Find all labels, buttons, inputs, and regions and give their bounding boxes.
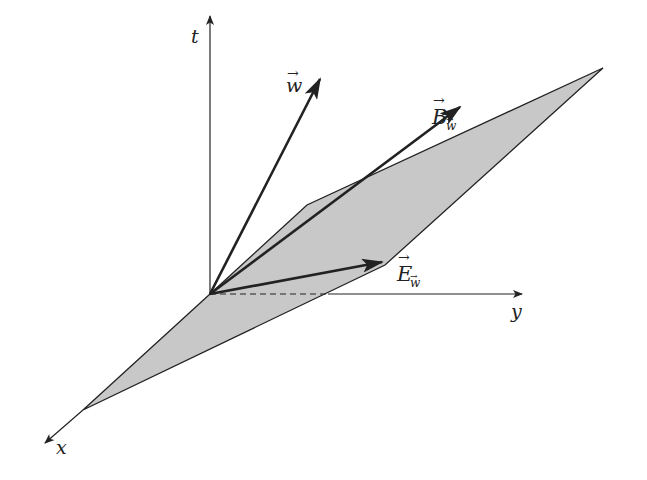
w-label: → w [286,65,302,96]
t-axis-label: t [191,25,199,47]
B-subscript: w [446,119,457,133]
E-subscript: w [410,276,421,290]
y-axis-label: y [510,300,522,322]
spacetime-diagram: t y x → w → B → w → E → w [0,0,647,480]
E-w-label: → E → w [396,249,421,290]
B-letter: B [431,105,447,129]
w-letter: w [286,74,302,96]
x-axis-label: x [56,436,67,458]
plane-polygon [83,68,603,410]
